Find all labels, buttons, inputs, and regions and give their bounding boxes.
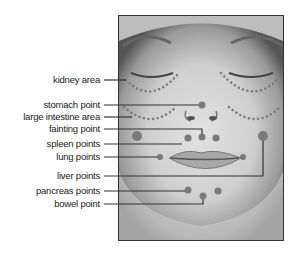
label-fainting-point: fainting point: [49, 124, 100, 134]
label-lung-points: lung points: [56, 152, 100, 162]
pancreas-point-right: [215, 188, 222, 195]
label-large-intestine-area: large intestine area: [23, 112, 100, 122]
liver-point-right: [258, 131, 268, 141]
label-pancreas-points: pancreas points: [36, 186, 100, 196]
bowel-point: [200, 193, 207, 200]
leader-lines: [0, 0, 301, 254]
label-kidney-area: kidney area: [53, 75, 100, 85]
label-spleen-points: spleen points: [47, 139, 100, 149]
stomach-point: [199, 102, 206, 109]
lung-point-right: [240, 154, 246, 160]
pancreas-point-left: [185, 187, 192, 194]
label-bowel-point: bowel point: [54, 199, 100, 209]
spleen-point-right: [213, 135, 220, 142]
spleen-point-left: [185, 135, 192, 142]
lung-point-left: [157, 154, 163, 160]
label-liver-points: liver points: [57, 171, 100, 181]
liver-point-left: [132, 131, 142, 141]
diagram: kidney area stomach point large intestin…: [0, 0, 301, 254]
fainting-point: [199, 134, 206, 141]
label-stomach-point: stomach point: [43, 100, 100, 110]
